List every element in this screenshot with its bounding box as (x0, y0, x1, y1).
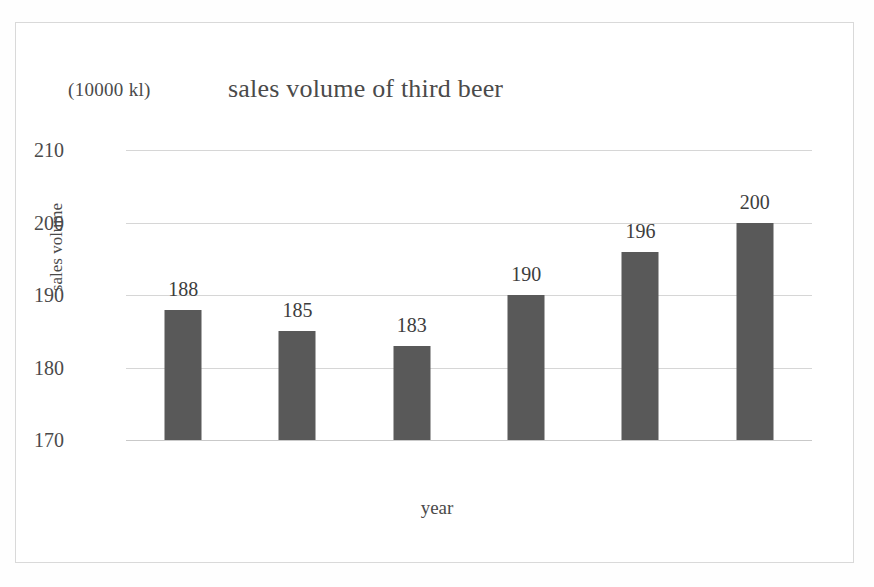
bar-slot: 200 (698, 150, 812, 440)
bar-value-label: 188 (168, 278, 198, 301)
y-axis-unit-label: (10000 kl) (68, 79, 151, 101)
bar-value-label: 196 (625, 220, 655, 243)
bar-slot: 190 (469, 150, 583, 440)
y-axis-tick-label: 200 (8, 211, 64, 234)
bar[interactable] (393, 346, 430, 440)
y-axis-tick-label: 180 (8, 356, 64, 379)
bar[interactable] (508, 295, 545, 440)
gridline (126, 440, 812, 441)
x-axis-title: year (0, 497, 874, 519)
bar-slot: 183 (355, 150, 469, 440)
bar[interactable] (165, 310, 202, 441)
x-tick-slot: 2018 (469, 150, 583, 151)
x-tick-slot: 2016 (240, 150, 354, 151)
plot-area: 210200190180170 188185183190196200 20152… (126, 150, 812, 440)
bar[interactable] (736, 223, 773, 441)
bar-value-label: 183 (397, 314, 427, 337)
x-tick-slot: 2020 (698, 150, 812, 151)
x-tick-slot: 2015 (126, 150, 240, 151)
chart-page: (10000 kl) sales volume of third beer sa… (0, 0, 874, 587)
bar-value-label: 200 (740, 191, 770, 214)
bar[interactable] (622, 252, 659, 441)
x-tick-slot: 2019 (583, 150, 697, 151)
x-tick-slot: 2017 (355, 150, 469, 151)
bar-slot: 185 (240, 150, 354, 440)
bar-value-label: 190 (511, 263, 541, 286)
y-axis-tick-label: 190 (8, 284, 64, 307)
bar-slot: 196 (583, 150, 697, 440)
bar-slot: 188 (126, 150, 240, 440)
y-axis-tick-label: 170 (8, 429, 64, 452)
y-axis-tick-label: 210 (8, 139, 64, 162)
chart-title: sales volume of third beer (228, 74, 503, 104)
bar[interactable] (279, 331, 316, 440)
bar-value-label: 185 (282, 299, 312, 322)
